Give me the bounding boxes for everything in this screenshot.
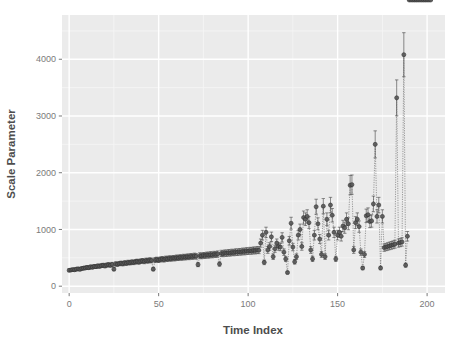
chart-container: 050100150200 01000200030004000 Time Inde… (0, 0, 471, 342)
x-axis-title: Time Index (223, 324, 283, 336)
x-tick-label: 100 (241, 299, 256, 309)
x-tick-label: 0 (67, 299, 72, 309)
scatter-line-chart: 050100150200 01000200030004000 Time Inde… (0, 0, 471, 342)
y-tick-label: 1000 (36, 225, 56, 235)
x-tick-label: 150 (330, 299, 345, 309)
y-axis-title: Scale Parameter (5, 109, 17, 199)
y-tick-label: 2000 (36, 168, 56, 178)
y-tick-label: 3000 (36, 111, 56, 121)
x-tick-label: 200 (420, 299, 435, 309)
y-tick-label: 4000 (36, 54, 56, 64)
x-tick-label: 50 (154, 299, 164, 309)
y-tick-label: 0 (51, 281, 56, 291)
